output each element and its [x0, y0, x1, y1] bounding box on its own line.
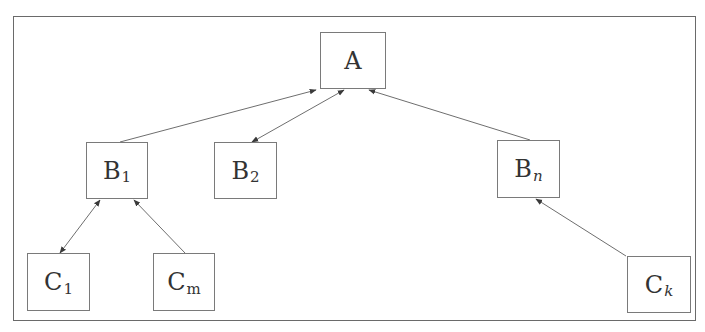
node-b1: B1	[86, 142, 148, 199]
node-label: B	[103, 159, 121, 183]
edge-b1-a-arrow	[120, 90, 316, 142]
edge-cm-b1-arrow	[134, 200, 185, 253]
node-subscript: n	[533, 169, 543, 184]
node-label: C	[167, 270, 185, 294]
node-subscript: 1	[63, 282, 73, 297]
node-subscript: 1	[122, 170, 132, 185]
edge-b2-a-arrow	[252, 90, 344, 142]
node-bn: Bn	[497, 140, 560, 198]
node-ck: Ck	[627, 256, 691, 313]
node-c1: C1	[27, 253, 90, 311]
node-b2: B2	[214, 142, 277, 199]
edge-c1-b1-arrow	[60, 200, 100, 253]
node-a: A	[320, 32, 386, 89]
node-label: A	[344, 49, 361, 73]
node-cm: Cm	[153, 253, 215, 311]
edge-ck-bn-arrow	[536, 199, 626, 256]
node-label: C	[44, 270, 62, 294]
node-label: B	[231, 159, 249, 183]
node-subscript: 2	[250, 170, 260, 185]
node-subscript: k	[664, 284, 673, 299]
edge-bn-a-arrow	[369, 90, 530, 140]
node-label: B	[514, 157, 532, 181]
node-label: C	[645, 273, 663, 297]
node-subscript: m	[187, 282, 201, 297]
